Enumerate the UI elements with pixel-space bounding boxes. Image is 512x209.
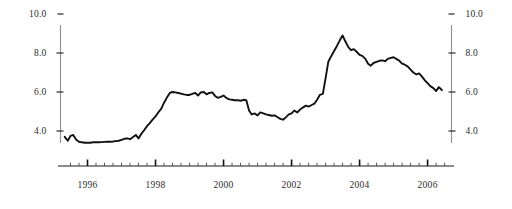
y-axis-left-tick-label: 10.0	[29, 9, 46, 19]
y-axis-left-tick-label: 6.0	[34, 87, 47, 97]
y-axis-right-tick-label: 6.0	[466, 87, 479, 97]
x-axis-tick-label: 1996	[77, 180, 97, 190]
y-axis-left-tick-label: 4.0	[34, 126, 47, 136]
y-axis-right-tick-label: 8.0	[466, 48, 479, 58]
y-axis-right-tick-label: 4.0	[466, 126, 479, 136]
line-chart: 4.06.08.010.0 4.06.08.010.0 199619982000…	[0, 0, 512, 209]
x-axis-tick-label: 2004	[349, 180, 369, 190]
x-axis-tick-label: 2000	[213, 180, 233, 190]
y-axis-left-tick-label: 8.0	[34, 48, 47, 58]
y-axis-right-tick-label: 10.0	[466, 9, 483, 19]
chart-container: 4.06.08.010.0 4.06.08.010.0 199619982000…	[0, 0, 512, 209]
plot-background	[0, 0, 512, 209]
x-axis-tick-label: 1998	[145, 180, 165, 190]
x-axis-tick-label: 2006	[417, 180, 437, 190]
x-axis-tick-label: 2002	[281, 180, 301, 190]
